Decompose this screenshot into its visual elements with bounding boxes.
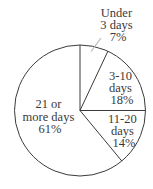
slice-label-under-3-days: Under 3 days 7% bbox=[100, 6, 135, 44]
pie-chart: Under 3 days 7% 3-10 days 18% 11-20 days… bbox=[0, 0, 153, 189]
slice-label-3-10-days: 3-10 days 18% bbox=[109, 69, 135, 107]
slice-label-11-20-days: 11-20 days 14% bbox=[108, 112, 140, 150]
